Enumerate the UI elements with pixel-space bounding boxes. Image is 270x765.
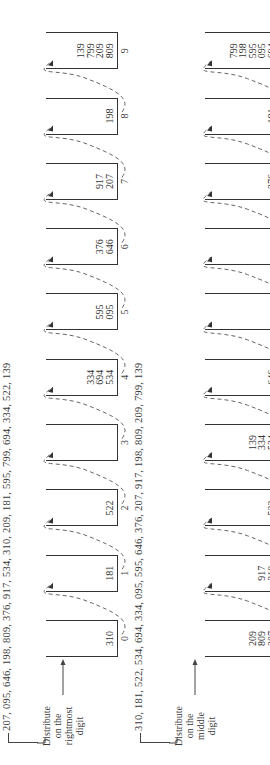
arrowhead-icon xyxy=(193,659,198,665)
arrowhead-icon xyxy=(207,452,212,458)
arrowhead-icon xyxy=(207,60,212,66)
flow-arrow xyxy=(44,518,125,569)
arrowhead-icon xyxy=(207,256,212,262)
flow-arrow xyxy=(44,584,125,635)
flow-arrow xyxy=(203,323,270,374)
flow-arrow xyxy=(44,388,125,439)
flow-arrow xyxy=(203,453,270,504)
flow-arrow xyxy=(44,257,125,308)
arrowhead-icon xyxy=(207,126,212,132)
arrowhead-icon xyxy=(207,387,212,393)
arrowhead-icon xyxy=(61,659,66,665)
flow-arrow xyxy=(44,61,125,112)
flow-arrow xyxy=(44,323,125,374)
arrowhead-icon xyxy=(207,322,212,328)
flow-arrow xyxy=(203,127,270,178)
distribution-arrows xyxy=(0,0,270,765)
flow-arrow xyxy=(203,518,270,569)
flow-arrow xyxy=(44,192,125,243)
flow-arrow xyxy=(203,192,270,243)
flow-arrow xyxy=(203,257,270,308)
flow-arrow xyxy=(44,453,125,504)
arrowhead-icon xyxy=(207,583,212,589)
flow-arrow xyxy=(203,61,270,112)
flow-arrow xyxy=(203,388,270,439)
arrowhead-icon xyxy=(207,517,212,523)
radix-sort-diagram: 207, 095, 646, 198, 809, 376, 917, 534, … xyxy=(0,0,270,765)
flow-arrow xyxy=(44,127,125,178)
flow-arrow xyxy=(203,584,270,635)
arrowhead-icon xyxy=(207,191,212,197)
